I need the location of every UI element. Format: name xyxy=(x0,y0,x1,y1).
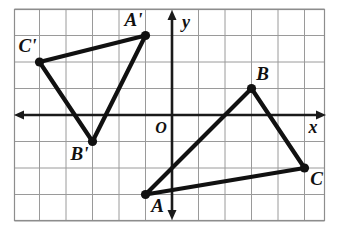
vertex-dot-c-prime xyxy=(35,57,44,66)
vertex-dot-b-prime xyxy=(88,137,97,146)
vertex-dot-a xyxy=(141,190,150,199)
point-label-a-prime: A' xyxy=(124,9,143,30)
coordinate-plane-figure: ABCA'B'C' O x y xyxy=(0,0,340,235)
origin-label: O xyxy=(155,119,167,136)
point-label-c-prime: C' xyxy=(19,35,37,56)
point-label-a: A xyxy=(150,195,164,216)
coordinate-plane-svg: ABCA'B'C' O x y xyxy=(0,0,340,235)
x-axis-label: x xyxy=(308,117,318,137)
vertex-dot-c xyxy=(300,163,309,172)
point-label-b-prime: B' xyxy=(70,143,89,164)
point-label-b: B xyxy=(255,63,269,84)
vertex-dot-a-prime xyxy=(141,31,150,40)
y-axis-label: y xyxy=(180,12,191,32)
vertex-dot-b xyxy=(247,84,256,93)
point-label-c: C xyxy=(310,168,323,189)
